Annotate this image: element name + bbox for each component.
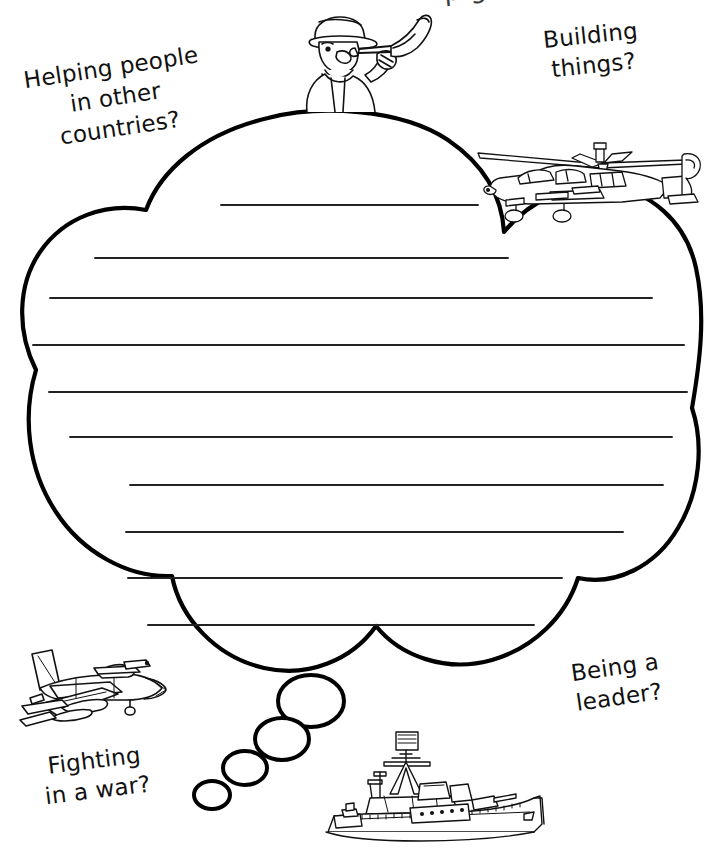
attack-helicopter-illustration [472, 136, 704, 232]
fighter-jet-illustration [6, 642, 178, 738]
navy-destroyer-illustration [312, 728, 562, 846]
bugler-soldier-illustration [285, 8, 435, 120]
trail-bubble-3 [223, 751, 267, 785]
trail-bubble-4 [194, 781, 230, 809]
worksheet-page: p g [0, 0, 708, 850]
trail-bubble-2 [255, 718, 309, 760]
